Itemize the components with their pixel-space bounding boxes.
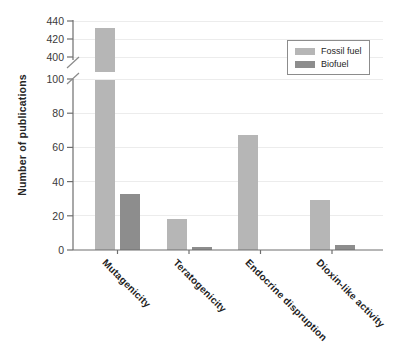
legend-label-fossil-fuel: Fossil fuel: [321, 46, 362, 56]
x-category-label: Endocrine dispruption: [243, 257, 329, 343]
y-tick-label: 80: [28, 107, 64, 119]
y-tick-label: 100: [28, 73, 64, 85]
y-tick-label: 40: [28, 176, 64, 188]
legend: Fossil fuel Biofuel: [287, 40, 370, 75]
x-category-label: Dioxin-like activity: [314, 257, 387, 330]
fossil-fuel-swatch-icon: [295, 48, 315, 55]
y-tick-label: 60: [28, 141, 64, 153]
legend-item-biofuel: Biofuel: [295, 59, 362, 69]
y-tick-label: 20: [28, 210, 64, 222]
y-tick-label: 440: [28, 15, 64, 27]
legend-label-biofuel: Biofuel: [321, 59, 349, 69]
y-tick-label: 420: [28, 33, 64, 45]
biofuel-swatch-icon: [295, 61, 315, 68]
bar-chart-figure: 020406080100400420440MutagenicityTeratog…: [0, 0, 413, 357]
y-tick-label: 400: [28, 51, 64, 63]
y-tick-label: 0: [28, 244, 64, 256]
legend-item-fossil-fuel: Fossil fuel: [295, 46, 362, 56]
x-category-label: Mutagenicity: [100, 257, 153, 310]
x-category-label: Teratogenicity: [171, 257, 229, 315]
